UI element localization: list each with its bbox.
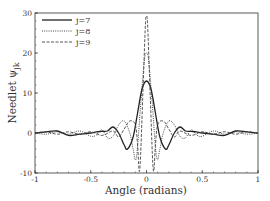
legend: j=7j=8j=9	[42, 16, 90, 47]
series-line-j-9	[35, 16, 258, 171]
plot-frame	[35, 13, 258, 173]
x-tick-label: 0	[144, 175, 149, 184]
series-line-j-8	[35, 53, 258, 160]
needlet-chart: -1-0.500.51 -100102030 j=7j=8j=9 Angle (…	[0, 0, 270, 201]
legend-label: j=7	[75, 16, 90, 25]
x-tick-label: 0.5	[196, 175, 208, 184]
y-tick-label: 0	[27, 129, 32, 138]
x-tick-label: -0.5	[84, 175, 99, 184]
y-tick-label: 30	[22, 9, 32, 18]
y-tick-label: 10	[22, 89, 32, 98]
x-axis: -1-0.500.51	[31, 170, 260, 184]
legend-label: j=9	[75, 38, 90, 47]
x-axis-label: Angle (radians)	[104, 184, 187, 196]
y-tick-label: 20	[22, 49, 32, 58]
legend-label: j=8	[75, 27, 90, 36]
series-line-j-7	[35, 81, 258, 149]
x-tick-label: 1	[256, 175, 261, 184]
y-tick-label: -10	[20, 169, 32, 178]
x-tick-label: -1	[31, 175, 38, 184]
svg-text:Needlet ψjk: Needlet ψjk	[6, 62, 21, 123]
y-axis-label: Needlet ψjk	[6, 62, 21, 123]
plot-lines	[35, 16, 258, 171]
